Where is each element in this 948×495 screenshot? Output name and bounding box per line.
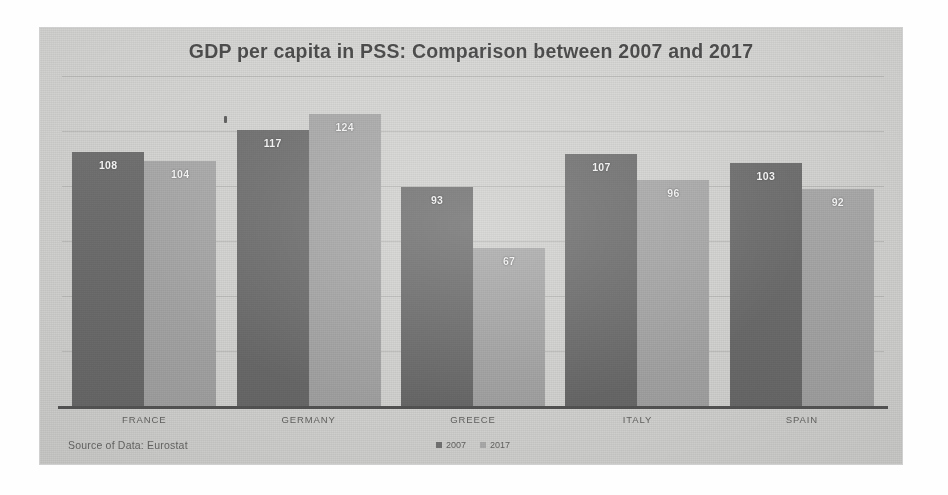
legend-label: 2007 — [446, 440, 466, 450]
category-label-spain: SPAIN — [720, 414, 884, 425]
chart-legend: 2007 2017 — [62, 440, 884, 450]
bar-group-greece: 93 67 — [391, 76, 555, 406]
bar-france-2017[interactable]: 104 — [144, 161, 216, 406]
bar-greece-2007[interactable]: 93 — [401, 187, 473, 406]
category-axis-labels: FRANCE GERMANY GREECE ITALY SPAIN — [62, 414, 884, 425]
bar-fill — [730, 163, 802, 406]
bar-value-label: 67 — [503, 255, 515, 267]
bar-value-label: 96 — [667, 187, 679, 199]
bar-germany-2007[interactable]: 117 — [237, 130, 309, 406]
bar-value-label: 104 — [171, 168, 189, 180]
bar-fill — [72, 152, 144, 406]
bar-groups: 108 104 117 124 — [62, 76, 884, 406]
bar-fill — [637, 180, 709, 406]
bar-germany-2017[interactable]: 124 — [309, 114, 381, 406]
bar-group-germany: 117 124 — [226, 76, 390, 406]
category-label-italy: ITALY — [555, 414, 719, 425]
bar-fill — [144, 161, 216, 406]
bar-fill — [401, 187, 473, 406]
bar-fill — [473, 248, 545, 406]
bar-value-label: 92 — [832, 196, 844, 208]
legend-label: 2017 — [490, 440, 510, 450]
bar-italy-2017[interactable]: 96 — [637, 180, 709, 406]
chart-panel: GDP per capita in PSS: Comparison betwee… — [40, 28, 902, 464]
category-label-greece: GREECE — [391, 414, 555, 425]
plot-area: 108 104 117 124 — [62, 76, 884, 406]
legend-swatch-icon — [480, 442, 486, 448]
bar-fill — [565, 154, 637, 406]
bar-fill — [802, 189, 874, 406]
bar-group-spain: 103 92 — [720, 76, 884, 406]
bar-value-label: 107 — [592, 161, 610, 173]
bar-value-label: 117 — [264, 137, 282, 149]
bar-france-2007[interactable]: 108 — [72, 152, 144, 406]
bar-italy-2007[interactable]: 107 — [565, 154, 637, 406]
category-label-germany: GERMANY — [226, 414, 390, 425]
x-axis-line — [58, 406, 888, 409]
bar-value-label: 124 — [335, 121, 353, 133]
bar-fill — [237, 130, 309, 406]
screenshot-root: GDP per capita in PSS: Comparison betwee… — [0, 0, 948, 495]
legend-item-2017[interactable]: 2017 — [480, 440, 510, 450]
chart-title: GDP per capita in PSS: Comparison betwee… — [40, 40, 902, 63]
legend-item-2007[interactable]: 2007 — [436, 440, 466, 450]
bar-spain-2007[interactable]: 103 — [730, 163, 802, 406]
bar-greece-2017[interactable]: 67 — [473, 248, 545, 406]
legend-swatch-icon — [436, 442, 442, 448]
bar-fill — [309, 114, 381, 406]
bar-group-france: 108 104 — [62, 76, 226, 406]
bar-value-label: 93 — [431, 194, 443, 206]
chart-footer: Source of Data: Eurostat 2007 2017 — [62, 436, 884, 460]
bar-group-italy: 107 96 — [555, 76, 719, 406]
bar-spain-2017[interactable]: 92 — [802, 189, 874, 406]
bar-value-label: 108 — [99, 159, 117, 171]
category-label-france: FRANCE — [62, 414, 226, 425]
bar-value-label: 103 — [757, 170, 775, 182]
